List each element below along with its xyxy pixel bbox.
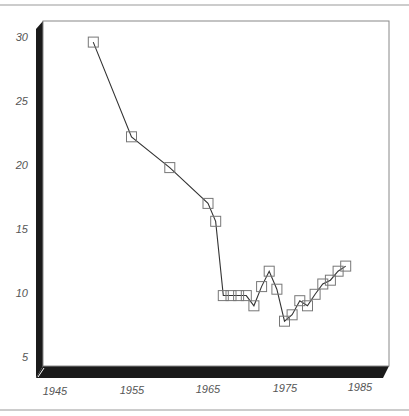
x-tick: 1975 — [273, 382, 298, 394]
x-tick: 1965 — [196, 383, 221, 395]
x-tick: 1945 — [43, 385, 68, 397]
floor — [36, 366, 389, 378]
x-tick: 1955 — [120, 384, 145, 396]
y-axis-labels: 30 25 20 15 10 5 — [15, 31, 29, 363]
y-tick: 10 — [16, 287, 29, 299]
x-tick: 1985 — [348, 381, 373, 393]
y-tick: 15 — [16, 223, 29, 235]
y-tick: 5 — [22, 351, 29, 363]
y-tick: 25 — [15, 95, 29, 107]
line-chart: 30 25 20 15 10 5 1945 1955 1965 1975 198… — [0, 0, 409, 416]
left-wall — [36, 21, 43, 378]
y-tick: 20 — [15, 159, 29, 171]
y-tick: 30 — [16, 31, 29, 43]
x-axis-labels: 1945 1955 1965 1975 1985 — [43, 381, 373, 397]
plot-area — [43, 21, 389, 366]
